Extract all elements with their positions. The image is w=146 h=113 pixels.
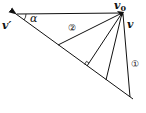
vector-line-3 (106, 13, 122, 80)
velocity-diagram: v′ α v0 v ② ① (0, 0, 146, 113)
label-line-1: ① (131, 59, 139, 69)
label-v-prime: v′ (2, 19, 11, 32)
label-v0: v0 (114, 0, 126, 13)
perpendicular-line (87, 13, 122, 66)
label-alpha: α (30, 12, 38, 25)
label-line-2: ② (68, 23, 76, 33)
alpha-angle-arc (24, 14, 26, 20)
label-v: v (127, 18, 134, 31)
